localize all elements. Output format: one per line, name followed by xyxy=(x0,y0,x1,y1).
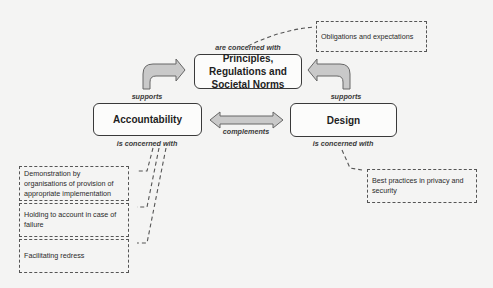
node-principles-text: Principles, Regulations and Societal Nor… xyxy=(195,52,301,91)
note-obligations-text: Obligations and expectations xyxy=(321,32,413,42)
note-holding-text: Holding to account in case of failure xyxy=(24,210,124,230)
note-demonstration: Demonstration by organisations of provis… xyxy=(19,166,129,201)
complements-double-arrow-icon xyxy=(210,112,283,128)
accountability-connectors xyxy=(137,148,166,243)
label-supports-left: supports xyxy=(132,92,163,101)
label-accountability-concerned: is concerned with xyxy=(117,139,178,148)
note-best-practices-text: Best practices in privacy and security xyxy=(372,176,472,196)
note-facilitating-redress: Facilitating redress xyxy=(19,239,129,273)
supports-arrow-left-icon xyxy=(143,59,185,89)
note-holding-to-account: Holding to account in case of failure xyxy=(19,203,129,237)
node-accountability: Accountability xyxy=(93,103,202,136)
node-principles: Principles, Regulations and Societal Nor… xyxy=(194,54,302,89)
note-obligations: Obligations and expectations xyxy=(316,21,427,52)
label-complements: complements xyxy=(223,127,269,136)
node-design: Design xyxy=(290,103,397,137)
note-demonstration-text: Demonstration by organisations of provis… xyxy=(24,169,124,199)
connector-design-best-practices xyxy=(342,150,362,170)
label-supports-right: supports xyxy=(331,92,362,101)
node-design-text: Design xyxy=(327,114,360,127)
supports-arrow-right-icon xyxy=(308,59,350,89)
label-design-concerned: is concerned with xyxy=(313,139,374,148)
note-redress-text: Facilitating redress xyxy=(24,251,84,261)
note-best-practices: Best practices in privacy and security xyxy=(367,169,477,203)
label-are-concerned-with: are concerned with xyxy=(215,43,281,52)
node-accountability-text: Accountability xyxy=(113,113,182,126)
